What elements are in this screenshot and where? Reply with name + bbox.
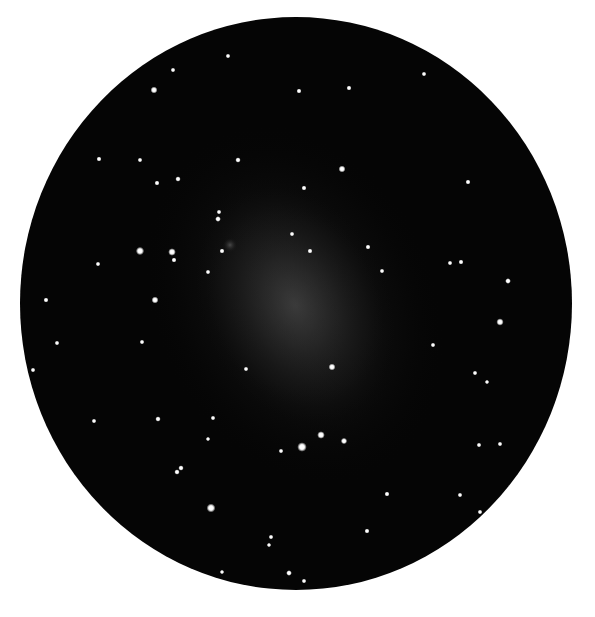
star-core [474, 372, 476, 374]
star-core [237, 159, 240, 162]
star-core [97, 263, 99, 265]
star-core [173, 259, 175, 261]
star-core [367, 246, 369, 248]
star-core [176, 471, 179, 474]
star-core [218, 211, 220, 213]
star-core [330, 365, 333, 368]
star-core [139, 159, 141, 161]
star-core [93, 420, 95, 422]
star-core [98, 158, 100, 160]
star-core [170, 250, 174, 254]
star-core [227, 55, 229, 57]
star-core [343, 440, 346, 443]
star-core [207, 271, 209, 273]
star-core [381, 270, 383, 272]
star-core [386, 493, 388, 495]
star-core [309, 250, 311, 252]
star-core [209, 506, 213, 510]
star-core [460, 261, 462, 263]
star-core [340, 167, 343, 170]
star-core [45, 299, 47, 301]
star-core [499, 443, 501, 445]
star-core [449, 262, 451, 264]
star-core [300, 445, 305, 450]
star-core [221, 571, 223, 573]
star-core [319, 433, 323, 437]
star-core [303, 580, 305, 582]
star-core [217, 218, 220, 221]
star-core [177, 178, 180, 181]
star-core [291, 233, 293, 235]
star-core [459, 494, 461, 496]
star-core [156, 182, 158, 184]
star-core [486, 381, 488, 383]
nebulous-knot [223, 238, 237, 252]
eyepiece-view [0, 0, 595, 617]
star-core [56, 342, 58, 344]
star-core [479, 511, 481, 513]
star-core [280, 450, 282, 452]
star-core [423, 73, 425, 75]
star-core [152, 88, 155, 91]
star-core [303, 187, 305, 189]
star-core [507, 280, 510, 283]
star-core [180, 467, 183, 470]
star-core [288, 572, 291, 575]
star-core [212, 417, 214, 419]
star-core [138, 249, 142, 253]
star-core [467, 181, 469, 183]
star-core [207, 438, 209, 440]
star-core [157, 418, 160, 421]
star-core [268, 544, 270, 546]
star-core [270, 536, 272, 538]
star-core [32, 369, 34, 371]
star-core [478, 444, 480, 446]
star-core [172, 69, 174, 71]
star-core [141, 341, 143, 343]
star-core [298, 90, 300, 92]
star-core [153, 298, 156, 301]
star-core [221, 250, 223, 252]
star-core [432, 344, 434, 346]
star-core [366, 530, 368, 532]
star-core [348, 87, 350, 89]
star-core [498, 320, 501, 323]
star-core [245, 368, 247, 370]
